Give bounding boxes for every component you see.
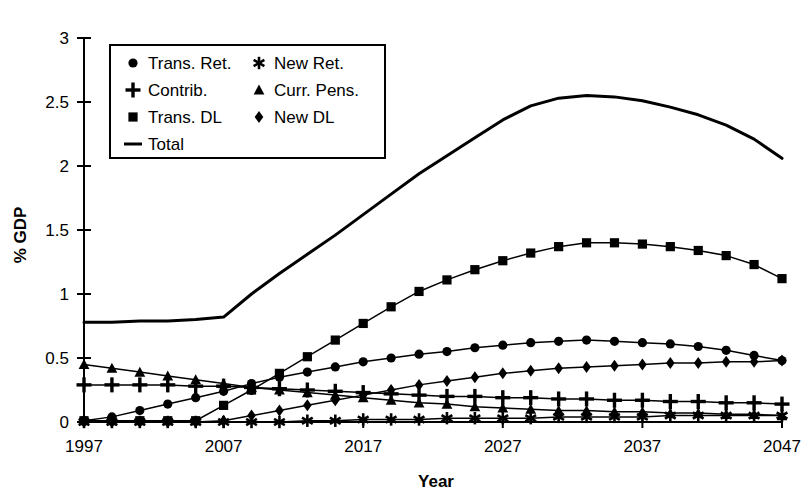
data-point-marker [359, 357, 368, 366]
data-point-marker [610, 337, 619, 346]
legend-group: Trans. Ret.New Ret.Contrib.Curr. Pens.Tr… [110, 45, 385, 158]
y-axis-title: % GDP [11, 207, 30, 264]
y-tick-label: 3 [60, 29, 69, 48]
data-point-marker [749, 260, 758, 269]
data-point-marker [526, 338, 535, 347]
data-point-marker [163, 399, 172, 408]
line-chart: 00.511.522.53 199720072017202720372047 T… [0, 0, 801, 503]
x-tick-label: 2037 [623, 437, 661, 456]
data-point-marker [638, 338, 647, 347]
data-point-marker [722, 251, 731, 260]
data-point-marker [610, 238, 619, 247]
data-point-marker [498, 341, 507, 350]
x-axis-title: Year [418, 472, 454, 491]
x-tick-label: 2017 [344, 437, 382, 456]
data-point-marker [666, 242, 675, 251]
legend-marker-circle [128, 58, 137, 67]
y-tick-label: 2 [60, 157, 69, 176]
x-tick-label: 2027 [484, 437, 522, 456]
data-point-marker [331, 362, 340, 371]
data-point-marker [526, 248, 535, 257]
data-point-marker [414, 287, 423, 296]
x-tick-label: 2047 [763, 437, 801, 456]
data-point-marker [414, 350, 423, 359]
data-point-marker [498, 256, 507, 265]
chart-container: 00.511.522.53 199720072017202720372047 T… [0, 0, 801, 503]
data-point-marker [442, 275, 451, 284]
data-point-marker [582, 238, 591, 247]
x-tick-label: 2007 [205, 437, 243, 456]
legend-label: Contrib. [148, 81, 208, 100]
data-point-marker [387, 353, 396, 362]
data-point-marker [554, 337, 563, 346]
data-point-marker [442, 347, 451, 356]
legend-label: New Ret. [274, 54, 344, 73]
data-point-marker [694, 246, 703, 255]
data-point-marker [722, 346, 731, 355]
data-point-marker [554, 242, 563, 251]
data-point-marker [694, 342, 703, 351]
data-point-marker [470, 343, 479, 352]
data-point-marker [359, 319, 368, 328]
legend-label: Total [148, 135, 184, 154]
legend-label: Trans. Ret. [148, 54, 231, 73]
data-point-marker [582, 335, 591, 344]
legend-label: New DL [274, 108, 334, 127]
data-point-marker [666, 339, 675, 348]
y-tick-label: 1 [60, 285, 69, 304]
y-tick-label: 0.5 [45, 349, 69, 368]
data-point-marker [191, 393, 200, 402]
data-point-marker [303, 352, 312, 361]
data-point-marker [275, 369, 284, 378]
data-point-marker [331, 335, 340, 344]
data-point-marker [638, 239, 647, 248]
data-point-marker [470, 265, 479, 274]
data-point-marker [219, 401, 228, 410]
data-point-marker [135, 406, 144, 415]
data-point-marker [777, 274, 786, 283]
y-tick-label: 0 [60, 413, 69, 432]
legend-label: Trans. DL [148, 108, 222, 127]
x-tick-label: 1997 [65, 437, 103, 456]
y-tick-label: 1.5 [45, 221, 69, 240]
data-point-marker [387, 302, 396, 311]
legend-marker-square [128, 112, 137, 121]
legend-label: Curr. Pens. [274, 81, 359, 100]
data-point-marker [303, 367, 312, 376]
y-tick-label: 2.5 [45, 93, 69, 112]
